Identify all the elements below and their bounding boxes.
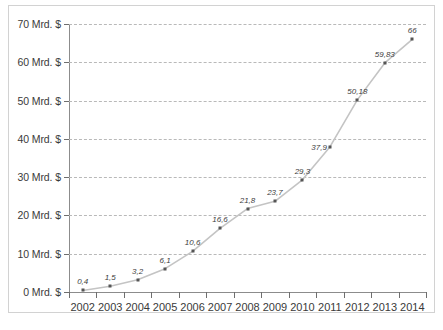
x-axis-label-2012: 2012 [345,301,369,313]
x-axis-label-2005: 2005 [153,301,177,313]
gridline-0 [69,292,426,293]
data-label-2004: 3,2 [132,267,143,276]
data-label-2011: 37,9 [311,142,327,151]
x-axis-label-2009: 2009 [263,301,287,313]
data-point-2006 [191,250,194,253]
y-axis-label-60: 60 Mrd. $ [18,56,61,68]
x-tick-2 [124,292,125,298]
x-tick-0 [69,292,70,298]
data-label-2009: 23,7 [267,188,283,197]
data-point-2002 [81,289,84,292]
series-line [69,24,426,292]
data-label-2002: 0,4 [77,277,88,286]
x-tick-11 [371,292,372,298]
data-label-2007: 16,6 [212,215,228,224]
data-label-2006: 10,6 [185,238,201,247]
x-axis-label-2008: 2008 [235,301,259,313]
data-point-2004 [136,278,139,281]
x-axis-label-2004: 2004 [125,301,149,313]
x-tick-9 [316,292,317,298]
chart-figure: 0 Mrd. $10 Mrd. $20 Mrd. $30 Mrd. $40 Mr… [8,5,435,313]
y-axis-label-30: 30 Mrd. $ [18,171,61,183]
y-axis-label-0: 0 Mrd. $ [23,286,61,298]
data-label-2012: 50,18 [347,87,367,96]
data-point-2005 [164,267,167,270]
x-axis-label-2003: 2003 [98,301,122,313]
data-label-2005: 6,1 [160,256,171,265]
x-tick-1 [96,292,97,298]
data-label-2008: 21,8 [240,196,256,205]
data-label-2013: 59,83 [375,50,395,59]
y-axis-label-70: 70 Mrd. $ [18,18,61,30]
data-point-2003 [109,285,112,288]
y-axis-label-50: 50 Mrd. $ [18,95,61,107]
x-axis-label-2011: 2011 [318,301,342,313]
y-axis-label-10: 10 Mrd. $ [18,248,61,260]
data-label-2003: 1,5 [105,273,116,282]
x-axis-label-2010: 2010 [290,301,314,313]
y-axis-label-20: 20 Mrd. $ [18,209,61,221]
x-tick-13 [426,292,427,298]
data-point-2007 [219,227,222,230]
x-tick-7 [261,292,262,298]
x-axis-label-2002: 2002 [70,301,94,313]
x-tick-4 [179,292,180,298]
x-tick-5 [206,292,207,298]
x-tick-8 [289,292,290,298]
data-point-2010 [301,178,304,181]
data-point-2014 [411,38,414,41]
data-label-2010: 29,3 [295,167,311,176]
y-axis-label-40: 40 Mrd. $ [18,133,61,145]
x-tick-6 [234,292,235,298]
data-point-2013 [383,61,386,64]
x-tick-10 [344,292,345,298]
data-point-2008 [246,207,249,210]
x-tick-12 [399,292,400,298]
plot-area: 0 Mrd. $10 Mrd. $20 Mrd. $30 Mrd. $40 Mr… [69,24,426,292]
x-axis-label-2013: 2013 [373,301,397,313]
data-label-2014: 66 [408,26,417,35]
x-axis-label-2006: 2006 [180,301,204,313]
x-axis-label-2014: 2014 [400,301,424,313]
data-point-2011 [328,145,331,148]
x-axis-label-2007: 2007 [208,301,232,313]
data-point-2012 [356,98,359,101]
data-point-2009 [273,200,276,203]
x-tick-3 [151,292,152,298]
